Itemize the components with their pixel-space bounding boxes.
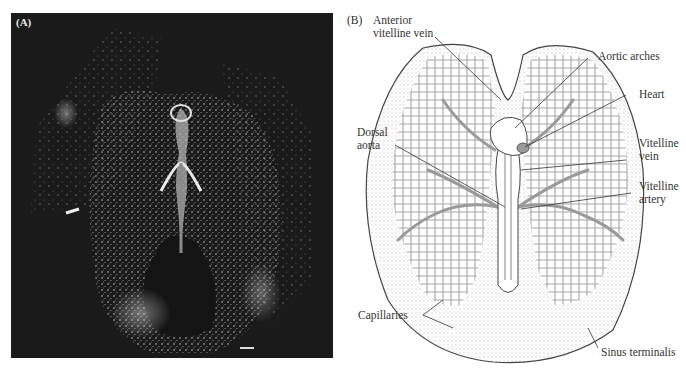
- label-aortic-arches: Aortic arches: [598, 50, 660, 63]
- label-dorsal-aorta-line2: aorta: [357, 139, 380, 152]
- micrograph-panel-a: (A): [11, 13, 333, 358]
- panel-label-a: (A): [16, 16, 31, 28]
- label-vitelline-artery-line2: artery: [639, 193, 666, 206]
- label-dorsal-aorta-line1: Dorsal: [357, 126, 388, 139]
- label-vitelline-vein-line2: vein: [639, 150, 659, 163]
- label-capillaries: Capillaries: [358, 309, 408, 322]
- diagram-panel-b: (B) Anterior vitelline vein Aortic arche…: [343, 0, 686, 371]
- label-anterior-vitelline-vein-line2: vitelline vein: [373, 27, 433, 40]
- micrograph-image: [11, 13, 333, 358]
- label-anterior-vitelline-vein-line1: Anterior: [373, 14, 412, 27]
- panel-label-b: (B): [347, 14, 362, 26]
- label-heart: Heart: [639, 88, 665, 101]
- scale-bar: [240, 347, 254, 349]
- label-vitelline-artery-line1: Vitelline: [639, 180, 679, 193]
- label-vitelline-vein-line1: Vitelline: [639, 137, 679, 150]
- label-sinus-terminalis: Sinus terminalis: [601, 346, 675, 359]
